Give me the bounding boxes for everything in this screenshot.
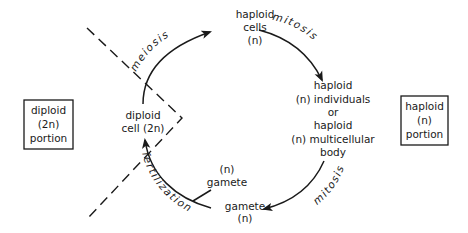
node-diploid-cell: diploid cell (2n) <box>122 109 165 134</box>
haploid-cells-line1: haploid <box>236 8 275 20</box>
haploid-portion-line3: portion <box>406 128 444 140</box>
diploid-cell-line2: cell (2n) <box>122 122 165 134</box>
haploid-portion-line2: (n) <box>417 114 432 126</box>
haploid-portion-line1: haploid <box>405 100 444 112</box>
life-cycle-diagram: diploid (2n) portion haploid (n) portion… <box>0 0 468 233</box>
diploid-portion-line2: (2n) <box>38 118 60 130</box>
haploid-body-line2: (n) individuals <box>296 93 371 105</box>
node-haploid-cells: haploid cells (n) <box>236 8 275 46</box>
mitosis-label-lower: mitosis <box>310 163 346 207</box>
meiosis-label: meiosis <box>127 27 171 73</box>
diploid-cell-line1: diploid <box>125 109 160 121</box>
haploid-body-line6: body <box>320 146 346 158</box>
diploid-portion-box: diploid (2n) portion <box>24 100 73 149</box>
node-gamete-lower: gamete (n) <box>225 200 265 224</box>
haploid-body-line5: (n) multicellular <box>291 133 375 145</box>
haploid-body-line4: haploid <box>314 119 353 131</box>
gamete-lower-line2: (n) <box>238 212 253 224</box>
diploid-portion-line3: portion <box>30 132 68 144</box>
haploid-cells-line3: (n) <box>248 34 263 46</box>
haploid-body-line3: or <box>328 106 339 118</box>
gamete-upper-line2: gamete <box>207 176 247 188</box>
fertilization-label: fertilization <box>140 150 195 214</box>
node-haploid-body: haploid (n) individuals or haploid (n) m… <box>291 79 375 158</box>
gamete-upper-line1: (n) <box>220 163 235 175</box>
gamete-join-line <box>193 190 211 201</box>
diploid-portion-line1: diploid <box>31 104 66 116</box>
haploid-portion-box: haploid (n) portion <box>401 96 448 145</box>
gamete-lower-line1: gamete <box>225 200 265 212</box>
haploid-body-line1: haploid <box>314 79 353 91</box>
node-gamete-upper: (n) gamete <box>207 163 247 188</box>
